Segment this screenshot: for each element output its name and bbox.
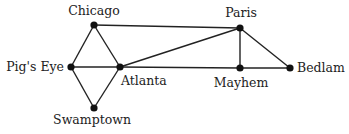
edge-atlanta-mayhem [120, 67, 240, 68]
node-label-atlanta: Atlanta [120, 73, 167, 88]
node-paris [236, 24, 243, 31]
node-label-chicago: Chicago [68, 3, 120, 18]
node-label-paris: Paris [225, 5, 257, 20]
node-label-pigs_eye: Pig's Eye [6, 59, 64, 74]
edges-group [71, 25, 290, 108]
node-bedlam [286, 64, 293, 71]
node-chicago [90, 21, 97, 28]
node-label-mayhem: Mayhem [214, 75, 269, 90]
node-atlanta [116, 63, 123, 70]
edge-atlanta-swamptown [94, 67, 120, 108]
edge-pigs_eye-swamptown [71, 67, 94, 108]
edge-chicago-paris [94, 25, 240, 28]
node-swamptown [90, 104, 97, 111]
edge-chicago-atlanta [94, 25, 120, 67]
labels-group: ChicagoPig's EyeAtlantaSwamptownParisMay… [6, 3, 345, 127]
edge-chicago-pigs_eye [71, 25, 94, 67]
node-label-bedlam: Bedlam [297, 60, 345, 75]
node-pigs_eye [67, 63, 74, 70]
edge-paris-bedlam [240, 28, 290, 68]
edge-atlanta-paris [120, 28, 240, 67]
node-mayhem [236, 64, 243, 71]
node-label-swamptown: Swamptown [53, 112, 131, 127]
graph-diagram: ChicagoPig's EyeAtlantaSwamptownParisMay… [0, 0, 349, 134]
